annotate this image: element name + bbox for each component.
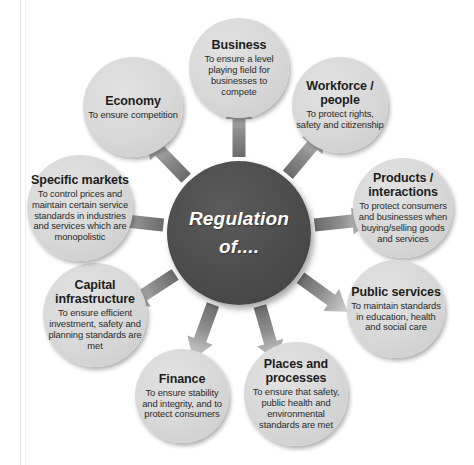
node-title-products-interactions: Products / interactions — [353, 171, 453, 199]
arrow-to-public-services — [293, 267, 356, 323]
node-title-public-services: Public services — [351, 285, 441, 299]
node-title-finance: Finance — [159, 372, 206, 386]
node-business[interactable]: BusinessTo ensure a level playing field … — [189, 18, 289, 118]
node-description-workforce-people: To protect rights, safety and citizenshi… — [292, 109, 388, 131]
node-products-interactions[interactable]: Products / interactionsTo protect consum… — [353, 158, 453, 258]
node-description-finance: To ensure stability and integrity, and t… — [135, 388, 229, 421]
node-title-capital-infrastructure: Capital infrastructure — [43, 278, 147, 306]
node-title-workforce-people: Workforce / people — [292, 79, 388, 107]
node-description-business: To ensure a level playing field for busi… — [189, 54, 289, 98]
node-description-economy: To ensure competition — [84, 110, 182, 121]
diagram-canvas: BusinessTo ensure a level playing field … — [0, 0, 474, 465]
node-description-places-and-processes: To ensure that safety, public health and… — [244, 387, 348, 431]
node-title-economy: Economy — [105, 94, 161, 108]
node-economy[interactable]: EconomyTo ensure competition — [83, 57, 183, 157]
node-description-capital-infrastructure: To ensure efficient investment, safety a… — [43, 308, 147, 352]
node-workforce-people[interactable]: Workforce / peopleTo protect rights, saf… — [292, 57, 388, 153]
node-title-business: Business — [212, 38, 267, 52]
node-description-specific-markets: To control prices and maintain certain s… — [27, 189, 133, 244]
center-hub: Regulation of.... — [167, 161, 311, 305]
node-public-services[interactable]: Public servicesTo maintain standards in … — [347, 260, 445, 358]
center-hub-label: Regulation of.... — [167, 205, 311, 260]
node-specific-markets[interactable]: Specific marketsTo control prices and ma… — [27, 155, 133, 261]
node-title-specific-markets: Specific markets — [31, 173, 129, 187]
node-places-and-processes[interactable]: Places and processesTo ensure that safet… — [244, 342, 348, 446]
node-title-places-and-processes: Places and processes — [244, 357, 348, 385]
node-description-public-services: To maintain standards in education, heal… — [347, 301, 445, 334]
node-capital-infrastructure[interactable]: Capital infrastructureTo ensure efficien… — [43, 263, 147, 367]
node-finance[interactable]: FinanceTo ensure stability and integrity… — [135, 349, 229, 443]
node-description-products-interactions: To protect consumers and businesses when… — [353, 201, 453, 245]
